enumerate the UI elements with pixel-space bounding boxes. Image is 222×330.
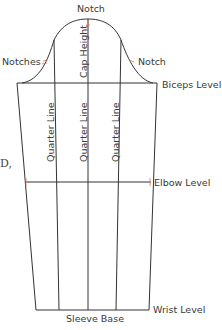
right-underarm-seam xyxy=(149,83,157,310)
wrist-level-label: Wrist Level xyxy=(153,305,205,315)
notch-right-label: Notch xyxy=(138,57,166,67)
sleeve-pattern-diagram: Notch Notches Notch Biceps Level Cap Hei… xyxy=(0,0,222,330)
quarter-line-right-label: Quarter Line xyxy=(111,102,121,162)
sleeve-base-label: Sleeve Base xyxy=(66,314,124,324)
notches-left-label: Notches xyxy=(2,57,41,67)
left-underarm-seam xyxy=(17,83,36,310)
quarter-line-left-label: Quarter Line xyxy=(46,102,56,162)
quarter-line-center-label: Quarter Line xyxy=(79,102,89,162)
notch-top-label: Notch xyxy=(77,4,105,14)
edge-text-fragment: D, xyxy=(0,157,12,170)
sleeve-pattern-drawing xyxy=(0,0,222,330)
left-quarter-line xyxy=(54,40,59,310)
left-notch-marks xyxy=(42,60,48,64)
right-quarter-line xyxy=(116,40,121,310)
biceps-level-label: Biceps Level xyxy=(162,80,221,90)
cap-height-label: Cap Height xyxy=(79,25,89,78)
elbow-level-label: Elbow Level xyxy=(154,178,210,188)
